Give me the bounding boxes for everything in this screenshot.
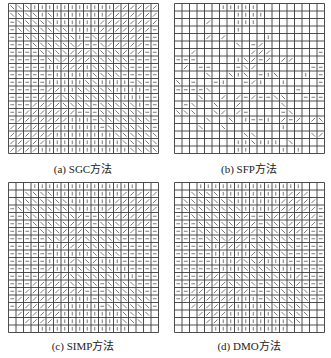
panel-sfp: [174, 3, 325, 154]
fiber-grid: [174, 182, 325, 333]
fiber-grid: [174, 3, 325, 154]
panel-sgc: [8, 3, 159, 154]
caption-sgc: (a) SGC方法: [23, 160, 143, 176]
panel-dmo: [174, 182, 325, 333]
panel-simp: [8, 182, 159, 333]
caption-sfp: (b) SFP方法: [189, 160, 309, 176]
fiber-grid: [8, 3, 159, 154]
caption-simp: (c) SIMP方法: [23, 337, 143, 353]
caption-dmo: (d) DMO方法: [189, 337, 309, 353]
fiber-grid: [8, 182, 159, 333]
